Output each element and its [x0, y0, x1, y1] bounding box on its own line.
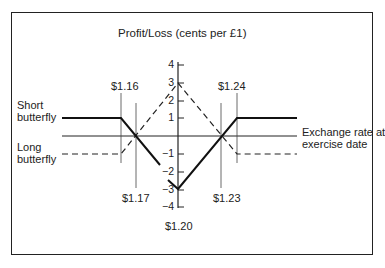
- x-marker-124: $1.24: [218, 80, 246, 92]
- legend-short-line2: butterfly: [17, 111, 56, 123]
- x-marker-123: $1.23: [213, 192, 241, 204]
- chart-title: Profit/Loss (cents per £1): [118, 27, 246, 39]
- x-marker-120: $1.20: [165, 220, 193, 232]
- y-tick-2: 2: [160, 95, 174, 106]
- y-tick-1: 1: [160, 112, 174, 123]
- short-butterfly-line-left: [62, 118, 160, 165]
- y-tick-minus-4: −4: [160, 201, 174, 212]
- legend-long-line1: Long: [17, 141, 41, 153]
- x-axis-label-line1: Exchange rate at: [302, 126, 385, 138]
- y-tick-minus-1: −1: [160, 148, 174, 159]
- legend-long-line2: butterfly: [17, 153, 56, 165]
- y-tick-minus-3: −3: [160, 184, 174, 195]
- legend-short-line1: Short: [17, 99, 43, 111]
- y-tick-3: 3: [160, 77, 174, 88]
- y-tick-4: 4: [160, 59, 174, 70]
- x-axis-label-line2: exercise date: [302, 138, 367, 150]
- x-marker-116: $1.16: [111, 80, 139, 92]
- x-marker-117: $1.17: [122, 192, 150, 204]
- y-tick-minus-2: −2: [160, 166, 174, 177]
